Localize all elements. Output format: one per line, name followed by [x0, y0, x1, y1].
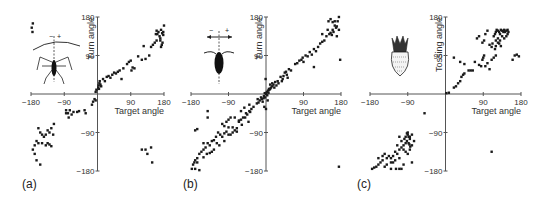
data-point — [493, 56, 495, 58]
data-point — [486, 62, 488, 64]
data-point — [39, 163, 41, 165]
data-point — [409, 136, 411, 138]
data-point — [146, 153, 148, 155]
panel-b: − + −180−909018018090−90−180Target angle… — [182, 13, 348, 191]
data-point — [141, 59, 143, 61]
data-point — [65, 112, 67, 114]
data-point — [211, 151, 213, 153]
data-point — [202, 142, 204, 144]
minus-sign: − — [49, 33, 53, 40]
data-point — [315, 50, 317, 52]
data-point — [400, 140, 402, 142]
data-point — [215, 136, 217, 138]
data-point — [402, 148, 404, 150]
data-point — [100, 85, 102, 87]
data-point — [497, 37, 499, 39]
data-point — [390, 168, 392, 170]
data-point — [448, 92, 450, 94]
inset-icon-insect: − + — [33, 33, 80, 84]
data-point — [398, 136, 400, 138]
data-point — [469, 69, 471, 71]
data-point — [501, 35, 503, 37]
data-point — [480, 65, 482, 67]
data-point — [488, 68, 490, 70]
y-tick-label: −180 — [76, 167, 95, 176]
data-point — [206, 153, 208, 155]
data-point — [406, 140, 408, 142]
data-point — [148, 54, 150, 56]
data-point — [260, 96, 262, 98]
data-point — [445, 92, 447, 94]
data-point — [72, 111, 74, 113]
larva-abdomen — [391, 52, 408, 76]
data-point — [259, 99, 261, 101]
data-point — [275, 84, 277, 86]
data-point — [490, 151, 492, 153]
data-point — [144, 58, 146, 60]
data-point — [408, 143, 410, 145]
data-point — [277, 82, 279, 84]
data-point — [241, 124, 243, 126]
data-point — [196, 157, 198, 159]
x-axis-title: Target angle — [114, 106, 164, 116]
data-point — [304, 54, 306, 56]
data-point — [238, 121, 240, 123]
data-point — [460, 76, 462, 78]
data-point — [321, 41, 323, 43]
y-tick-label: −90 — [429, 129, 443, 138]
data-point — [459, 80, 461, 82]
data-point — [478, 64, 480, 66]
data-point — [396, 153, 398, 155]
data-point — [459, 61, 461, 63]
data-point — [150, 46, 152, 48]
data-point — [484, 33, 486, 35]
data-point — [499, 33, 501, 35]
data-point — [381, 159, 383, 161]
panel-a: − + −180−909018018090−90−180Target angle… — [22, 13, 171, 191]
data-point — [313, 66, 315, 68]
plus-sign: + — [57, 33, 61, 40]
data-point — [301, 56, 303, 58]
data-point — [309, 51, 311, 53]
data-point — [404, 136, 406, 138]
data-point — [84, 112, 86, 114]
data-point — [158, 35, 160, 37]
data-point — [505, 35, 507, 37]
data-point — [302, 61, 304, 63]
insect-body — [52, 60, 57, 76]
data-point — [31, 31, 33, 33]
data-point — [281, 78, 283, 80]
data-point — [209, 152, 211, 154]
data-point — [41, 133, 43, 135]
data-point — [194, 129, 196, 131]
data-point — [490, 59, 492, 61]
data-point — [388, 155, 390, 157]
larva-body — [215, 52, 224, 74]
data-point — [398, 148, 400, 150]
data-point — [243, 106, 245, 108]
data-point — [159, 37, 161, 39]
data-point — [236, 127, 238, 129]
data-point — [411, 133, 413, 135]
data-point — [406, 132, 408, 134]
data-point — [514, 54, 516, 56]
data-point — [495, 45, 497, 47]
data-point — [31, 26, 33, 28]
data-point — [150, 146, 152, 148]
data-point — [52, 133, 54, 135]
data-point — [481, 41, 483, 43]
arrow-right-head — [228, 35, 232, 39]
data-point — [476, 37, 478, 39]
data-point — [53, 123, 55, 125]
data-point — [234, 129, 236, 131]
data-point — [373, 166, 375, 168]
data-point — [483, 39, 485, 41]
data-point — [290, 69, 292, 71]
data-point — [41, 142, 43, 144]
data-point — [223, 125, 225, 127]
x-tick-label: −90 — [401, 98, 415, 107]
data-point — [95, 89, 97, 91]
panel-label: (b) — [183, 177, 198, 191]
data-point — [484, 65, 486, 67]
data-point — [404, 151, 406, 153]
